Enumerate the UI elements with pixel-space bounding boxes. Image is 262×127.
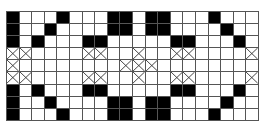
- empty-cell: [32, 60, 45, 72]
- cross-icon: [7, 60, 19, 71]
- empty-cell: [196, 12, 209, 24]
- empty-cell: [70, 24, 83, 36]
- empty-cell: [133, 85, 146, 97]
- cross-icon: [246, 72, 258, 83]
- empty-cell: [234, 12, 247, 24]
- cross-icon: [133, 48, 145, 59]
- crossed-cell: [183, 48, 196, 60]
- empty-cell: [221, 72, 234, 84]
- empty-cell: [20, 60, 33, 72]
- empty-cell: [45, 60, 58, 72]
- empty-cell: [158, 36, 171, 48]
- empty-cell: [45, 12, 58, 24]
- empty-cell: [70, 97, 83, 109]
- crossed-cell: [246, 48, 259, 60]
- empty-cell: [83, 97, 96, 109]
- filled-cell: [7, 85, 20, 97]
- cross-icon: [83, 48, 95, 59]
- empty-cell: [45, 85, 58, 97]
- crossed-cell: [183, 72, 196, 84]
- empty-cell: [158, 48, 171, 60]
- cross-icon: [183, 48, 195, 59]
- crossed-cell: [133, 60, 146, 72]
- crossed-cell: [7, 72, 20, 84]
- empty-cell: [246, 24, 259, 36]
- crossed-cell: [246, 72, 259, 84]
- empty-cell: [196, 36, 209, 48]
- empty-cell: [45, 36, 58, 48]
- empty-cell: [20, 97, 33, 109]
- empty-cell: [171, 109, 184, 121]
- filled-cell: [83, 36, 96, 48]
- empty-cell: [83, 109, 96, 121]
- empty-cell: [57, 48, 70, 60]
- empty-cell: [171, 12, 184, 24]
- empty-cell: [57, 60, 70, 72]
- empty-cell: [120, 85, 133, 97]
- filled-cell: [158, 24, 171, 36]
- empty-cell: [183, 109, 196, 121]
- empty-cell: [221, 48, 234, 60]
- empty-cell: [234, 97, 247, 109]
- empty-cell: [209, 85, 222, 97]
- empty-cell: [158, 72, 171, 84]
- empty-cell: [234, 60, 247, 72]
- filled-cell: [158, 12, 171, 24]
- filled-cell: [120, 24, 133, 36]
- empty-cell: [32, 97, 45, 109]
- filled-cell: [146, 24, 159, 36]
- empty-cell: [146, 72, 159, 84]
- empty-cell: [196, 85, 209, 97]
- filled-cell: [120, 12, 133, 24]
- empty-cell: [209, 97, 222, 109]
- empty-cell: [20, 24, 33, 36]
- filled-cell: [108, 109, 121, 121]
- filled-cell: [45, 97, 58, 109]
- cross-icon: [146, 60, 158, 71]
- empty-cell: [196, 72, 209, 84]
- empty-cell: [70, 60, 83, 72]
- empty-cell: [133, 12, 146, 24]
- empty-cell: [70, 85, 83, 97]
- empty-cell: [183, 60, 196, 72]
- crossed-cell: [95, 72, 108, 84]
- filled-cell: [120, 97, 133, 109]
- filled-cell: [146, 12, 159, 24]
- empty-cell: [108, 48, 121, 60]
- empty-cell: [57, 72, 70, 84]
- empty-cell: [246, 97, 259, 109]
- empty-cell: [83, 60, 96, 72]
- cross-icon: [246, 48, 258, 59]
- crossed-cell: [7, 60, 20, 72]
- crossed-cell: [171, 72, 184, 84]
- empty-cell: [108, 60, 121, 72]
- filled-cell: [7, 24, 20, 36]
- empty-cell: [83, 24, 96, 36]
- crossed-cell: [20, 72, 33, 84]
- filled-cell: [234, 36, 247, 48]
- empty-cell: [32, 72, 45, 84]
- empty-cell: [70, 109, 83, 121]
- empty-cell: [120, 72, 133, 84]
- empty-cell: [246, 60, 259, 72]
- empty-cell: [158, 85, 171, 97]
- empty-cell: [133, 24, 146, 36]
- filled-cell: [234, 85, 247, 97]
- empty-cell: [45, 72, 58, 84]
- empty-cell: [183, 12, 196, 24]
- empty-cell: [246, 12, 259, 24]
- empty-cell: [70, 72, 83, 84]
- empty-cell: [196, 60, 209, 72]
- empty-cell: [32, 12, 45, 24]
- cross-icon: [171, 48, 183, 59]
- empty-cell: [209, 24, 222, 36]
- empty-cell: [133, 109, 146, 121]
- empty-cell: [120, 48, 133, 60]
- empty-cell: [57, 36, 70, 48]
- empty-cell: [234, 48, 247, 60]
- crossed-cell: [133, 72, 146, 84]
- cross-icon: [183, 72, 195, 83]
- empty-cell: [95, 60, 108, 72]
- cross-icon: [20, 72, 32, 83]
- empty-cell: [146, 36, 159, 48]
